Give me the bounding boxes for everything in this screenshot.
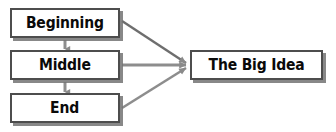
- node-beginning[interactable]: Beginning: [10, 8, 120, 38]
- node-big-idea[interactable]: The Big Idea: [190, 50, 323, 80]
- node-end-label: End: [51, 101, 80, 116]
- edge-end-to-bigidea: [122, 68, 186, 108]
- node-end[interactable]: End: [10, 93, 120, 123]
- node-middle-label: Middle: [39, 58, 91, 73]
- edge-beginning-to-bigidea: [122, 21, 186, 63]
- node-big-idea-label: The Big Idea: [209, 58, 305, 73]
- node-beginning-label: Beginning: [26, 16, 104, 31]
- diagram-canvas: Beginning Middle End The Big Idea: [0, 0, 336, 132]
- node-middle[interactable]: Middle: [10, 50, 120, 80]
